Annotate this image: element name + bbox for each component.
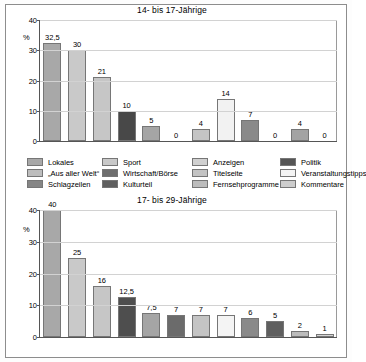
legend-label: Politik: [301, 158, 321, 167]
y-axis-unit-bottom: %: [23, 225, 30, 234]
bar: [266, 321, 284, 337]
legend-item: Schlagzeilen: [27, 179, 91, 189]
legend-swatch: [27, 158, 43, 166]
bar: [192, 129, 210, 141]
y-axis-tick-label: 20: [29, 269, 37, 278]
legend-label: „Aus aller Welt“: [48, 169, 99, 178]
bar-value-label: 16: [90, 276, 115, 285]
legend-item: Fernsehprogramme: [192, 179, 279, 189]
y-axis-tick-label: 10: [29, 106, 37, 115]
bar: [68, 50, 86, 141]
legend-label: Lokales: [48, 158, 74, 167]
chart-panel-top: 14- bis 17-Jährige 32,5302110504147040 0…: [6, 5, 346, 155]
plot-area-bottom: 40251612,57,57776521 010203040: [39, 210, 337, 338]
bar-value-label: 0: [263, 131, 288, 140]
bar-value-label: 2: [288, 321, 313, 330]
y-axis-tick-mark: [37, 50, 40, 51]
y-axis-tick-mark: [37, 20, 40, 21]
legend-label: Wirtschaft/Börse: [123, 169, 178, 178]
legend-swatch: [280, 158, 296, 166]
bar: [142, 126, 160, 141]
plot-area-top: 32,5302110504147040 010203040: [39, 20, 337, 142]
bar-value-label: 32,5: [40, 33, 65, 42]
y-axis-tick-mark: [37, 111, 40, 112]
legend-label: Kommentare: [301, 180, 344, 189]
gridline: [40, 274, 337, 275]
bar-value-label: 4: [288, 119, 313, 128]
bar-value-label: 14: [213, 89, 238, 98]
gridline: [40, 242, 337, 243]
legend-swatch: [192, 180, 208, 188]
legend-item: Sport: [102, 157, 141, 167]
chart-legend: LokalesSportAnzeigenPolitik„Aus aller We…: [27, 157, 347, 191]
bar: [291, 129, 309, 141]
gridline: [40, 111, 337, 112]
bar: [93, 77, 111, 141]
bar: [68, 258, 86, 337]
legend-swatch: [280, 169, 296, 177]
legend-swatch: [192, 158, 208, 166]
legend-item: Veranstaltungstipps: [280, 168, 366, 178]
bar: [93, 286, 111, 337]
bar-value-label: 4: [189, 119, 214, 128]
bar-value-label: 30: [65, 40, 90, 49]
bar-value-label: 21: [90, 67, 115, 76]
bar: [142, 313, 160, 337]
legend-swatch: [102, 169, 118, 177]
y-axis-tick-label: 30: [29, 237, 37, 246]
legend-item: „Aus aller Welt“: [27, 168, 99, 178]
gridline: [40, 20, 337, 21]
y-axis-tick-label: 40: [29, 206, 37, 215]
legend-label: Sport: [123, 158, 141, 167]
y-axis-tick-mark: [37, 337, 40, 338]
y-axis-tick-label: 10: [29, 301, 37, 310]
bar-value-label: 0: [312, 131, 337, 140]
chart-panel-bottom: 17- bis 29-Jährige 40251612,57,57776521 …: [6, 195, 346, 357]
bar: [192, 315, 210, 337]
y-axis-tick-mark: [37, 81, 40, 82]
bar-value-label: 6: [238, 308, 263, 317]
y-axis-tick-label: 30: [29, 46, 37, 55]
legend-label: Kulturteil: [123, 180, 152, 189]
legend-swatch: [192, 169, 208, 177]
legend-item: Kommentare: [280, 179, 344, 189]
bar-value-label: 5: [139, 116, 164, 125]
bar-value-label: 10: [114, 101, 139, 110]
bar-value-label: 5: [263, 311, 288, 320]
bar: [217, 99, 235, 141]
bar-value-label: 25: [65, 248, 90, 257]
legend-label: Anzeigen: [213, 158, 244, 167]
gridline: [40, 50, 337, 51]
legend-label: Fernsehprogramme: [213, 180, 279, 189]
legend-label: Schlagzeilen: [48, 180, 91, 189]
y-axis-tick-mark: [37, 305, 40, 306]
chart-title-top: 14- bis 17-Jährige: [6, 5, 338, 15]
bar: [316, 334, 334, 337]
bar: [217, 315, 235, 337]
gridline: [40, 81, 337, 82]
legend-label: Titelseite: [213, 169, 243, 178]
legend-swatch: [27, 169, 43, 177]
gridline: [40, 210, 337, 211]
legend-item: Titelseite: [192, 168, 243, 178]
y-axis-tick-mark: [37, 141, 40, 142]
y-axis-tick-label: 20: [29, 76, 37, 85]
legend-item: Anzeigen: [192, 157, 244, 167]
y-axis-tick-label: 40: [29, 16, 37, 25]
gridline: [40, 305, 337, 306]
legend-swatch: [102, 180, 118, 188]
legend-item: Politik: [280, 157, 321, 167]
bar-value-label: 40: [40, 200, 65, 209]
legend-item: Wirtschaft/Börse: [102, 168, 178, 178]
bar: [43, 43, 61, 141]
bar: [167, 315, 185, 337]
bar: [118, 111, 136, 141]
bar-value-label: 12,5: [114, 287, 139, 296]
y-axis-unit-top: %: [23, 33, 30, 42]
legend-swatch: [27, 180, 43, 188]
legend-item: Lokales: [27, 157, 74, 167]
legend-label: Veranstaltungstipps: [301, 169, 366, 178]
bar: [291, 331, 309, 337]
bar-value-label: 1: [312, 324, 337, 333]
